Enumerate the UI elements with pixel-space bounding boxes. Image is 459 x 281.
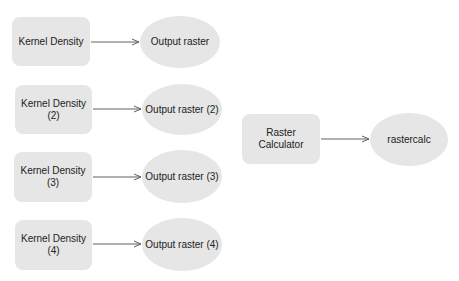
data-node-o5[interactable]: rastercalc (370, 113, 448, 166)
data-node-o5-label: rastercalc (387, 134, 430, 146)
tool-node-kd4[interactable]: Kernel Density (4) (15, 220, 92, 270)
data-node-o2-label: Output raster (2) (145, 104, 218, 116)
tool-node-kd1-label: Kernel Density (18, 36, 83, 48)
data-node-o1-label: Output raster (151, 36, 209, 48)
tool-node-kd4-label: Kernel Density (4) (21, 233, 86, 257)
tool-node-rc[interactable]: Raster Calculator (242, 114, 320, 164)
tool-node-kd2-label: Kernel Density (2) (21, 98, 86, 122)
data-node-o3-label: Output raster (3) (145, 171, 218, 183)
data-node-o3[interactable]: Output raster (3) (142, 150, 222, 203)
data-node-o2[interactable]: Output raster (2) (142, 84, 222, 135)
tool-node-kd3[interactable]: Kernel Density (3) (14, 152, 92, 202)
tool-node-rc-label: Raster Calculator (258, 127, 303, 151)
tool-node-kd3-label: Kernel Density (3) (20, 165, 85, 189)
data-node-o1[interactable]: Output raster (140, 16, 220, 68)
tool-node-kd2[interactable]: Kernel Density (2) (15, 85, 92, 134)
data-node-o4[interactable]: Output raster (4) (142, 218, 222, 271)
tool-node-kd1[interactable]: Kernel Density (12, 17, 90, 66)
data-node-o4-label: Output raster (4) (145, 239, 218, 251)
